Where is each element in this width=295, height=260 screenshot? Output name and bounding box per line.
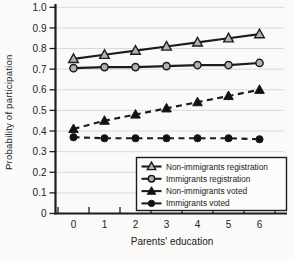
y-tick-label: 0.8 (33, 43, 47, 54)
y-axis: 00.10.20.30.40.50.60.70.80.91.0 (33, 2, 55, 219)
legend: Non-immigrants registrationImmigrants re… (137, 158, 287, 211)
circle-filled-marker (225, 135, 232, 142)
circle-open-marker (225, 61, 232, 68)
circle-filled-marker (101, 135, 108, 142)
triangle-open-marker (255, 29, 265, 38)
circle-open-marker (70, 65, 77, 72)
y-tick-label: 0.3 (33, 146, 47, 157)
series-immigrants-voted (70, 134, 263, 143)
x-tick-label: 2 (133, 219, 139, 230)
series-non-immigrants-voted (69, 85, 265, 133)
series-immigrants-registration (70, 59, 263, 71)
chart-figure: 00.10.20.30.40.50.60.70.80.91.00123456No… (0, 0, 295, 260)
circle-filled-marker (256, 136, 263, 143)
y-tick-label: 0.7 (33, 64, 47, 75)
x-tick-label: 4 (195, 219, 201, 230)
circle-filled-marker (148, 200, 154, 206)
series-non-immigrants-registration (69, 29, 265, 62)
x-tick-label: 5 (226, 219, 232, 230)
y-axis-title: Probability of participation (1, 0, 16, 224)
legend-label: Non-immigrants registration (166, 162, 268, 172)
x-tick-label: 0 (71, 219, 77, 230)
circle-open-marker (194, 61, 201, 68)
circle-filled-marker (163, 135, 170, 142)
circle-filled-marker (132, 135, 139, 142)
legend-label: Non-immigrants voted (166, 186, 248, 196)
x-tick-label: 6 (257, 219, 263, 230)
y-tick-label: 0.6 (33, 84, 47, 95)
line-chart-canvas: 00.10.20.30.40.50.60.70.80.91.00123456No… (0, 0, 295, 260)
y-tick-label: 1.0 (33, 2, 47, 13)
x-axis-title: Parents' education (55, 236, 289, 247)
circle-filled-marker (70, 134, 77, 141)
y-tick-label: 0.4 (33, 126, 47, 137)
y-tick-label: 0.9 (33, 23, 47, 34)
circle-filled-marker (194, 135, 201, 142)
y-tick-label: 0 (41, 208, 47, 219)
circle-open-marker (148, 176, 154, 182)
y-tick-label: 0.1 (33, 187, 47, 198)
circle-open-marker (163, 62, 170, 69)
y-tick-label: 0.5 (33, 105, 47, 116)
y-tick-label: 0.2 (33, 167, 47, 178)
x-tick-label: 3 (164, 219, 170, 230)
triangle-filled-marker (255, 85, 265, 94)
circle-open-marker (256, 59, 263, 66)
legend-label: Immigrants registration (166, 174, 251, 184)
circle-open-marker (132, 63, 139, 70)
legend-label: Immigrants voted (166, 198, 230, 208)
x-tick-label: 1 (102, 219, 108, 230)
circle-open-marker (101, 63, 108, 70)
